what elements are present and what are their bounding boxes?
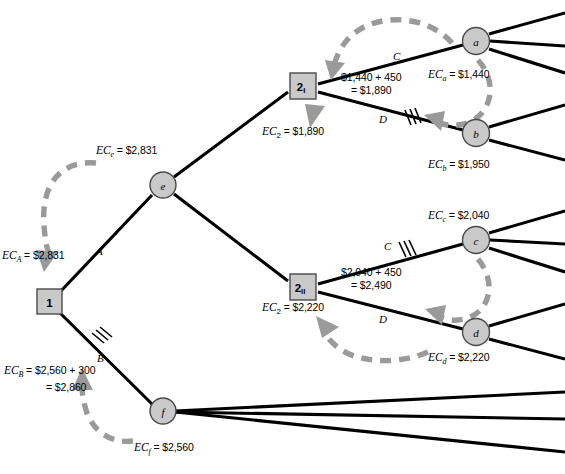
stub-c-1	[489, 211, 565, 233]
label-ec-e: ECe = $2,831	[96, 144, 157, 161]
ec-a-prefix: EC	[428, 68, 443, 80]
ec-a-eq: =	[446, 68, 458, 80]
label-ec-2II: EC2 = $2,220	[262, 301, 324, 318]
ec-c-value: $2,040	[458, 209, 490, 221]
label-ec-c: ECc = $2,040	[428, 209, 489, 226]
calc-upper-line1: $1,440 + 450	[341, 71, 401, 84]
ec-2II-prefix: EC	[262, 301, 277, 313]
stub-c-2	[490, 240, 565, 244]
ec-2I-prefix: EC	[262, 125, 277, 137]
edge-1-to-e	[60, 195, 152, 292]
svg-text:1: 1	[46, 297, 53, 309]
calc-upper-total: = $1,890	[351, 84, 391, 96]
ec-2II-eq: =	[281, 301, 293, 313]
svg-text:d: d	[473, 327, 479, 339]
svg-text:e: e	[161, 180, 166, 192]
calc-lower-line1: $2,040 + 450	[341, 266, 401, 279]
stub-b-2	[489, 140, 565, 160]
ec-f-value: $2,560	[162, 441, 194, 453]
node-decision-2I[interactable]: 2I	[290, 73, 316, 99]
label-ec-b: ECb = $1,950	[428, 158, 490, 175]
ec-f-prefix: EC	[134, 441, 149, 453]
calc-lower-total: = $2,490	[351, 279, 391, 291]
ec-e-eq: =	[114, 144, 126, 156]
node-chance-c[interactable]: c	[463, 227, 490, 254]
ec-b-eq: =	[446, 158, 458, 170]
svg-text:c: c	[474, 235, 479, 247]
ec-A-value: $2,831	[33, 249, 65, 261]
ec-B-line1: ECB = $2,560 + 300	[4, 364, 95, 381]
ec-B-total: = $2,860	[46, 381, 86, 393]
ec-A-eq: =	[21, 249, 33, 261]
label-branch-C-upper: C	[393, 50, 400, 63]
node-decision-1[interactable]: 1	[37, 289, 62, 314]
label-branch-B: B	[97, 352, 104, 365]
node-chance-d[interactable]: d	[463, 319, 490, 346]
ec-B-prefix: EC	[4, 364, 19, 376]
ec-b-prefix: EC	[428, 158, 443, 170]
ec-a-value: $1,440	[458, 68, 490, 80]
rollback-arrow-c-to-2II	[425, 259, 489, 325]
stub-b-1	[489, 105, 565, 127]
ec-d-prefix: EC	[428, 351, 443, 363]
prune-mark-C-lower	[399, 240, 416, 257]
calc-lower-sum: $2,040 + 450	[341, 266, 401, 278]
branch-C-lower-text: C	[384, 240, 391, 252]
stub-c-3	[489, 248, 565, 272]
label-branch-D-upper: D	[379, 113, 387, 126]
calc-lower-line2: = $2,490	[341, 279, 401, 292]
stub-a-1	[489, 13, 565, 34]
prune-mark-D-upper	[405, 108, 421, 125]
label-ec-f: ECf = $2,560	[134, 441, 194, 458]
stub-d-2	[489, 339, 565, 359]
node-chance-a[interactable]: a	[463, 28, 490, 55]
decision-tree-diagram: 1 2I 2II e f a b	[0, 0, 565, 474]
branch-B-text: B	[97, 352, 104, 364]
branch-A-text: A	[96, 245, 103, 257]
calc-upper-sum: $1,440 + 450	[341, 71, 401, 83]
label-ec-B: ECB = $2,560 + 300 = $2,860	[4, 364, 95, 394]
ec-2I-value: $1,890	[293, 125, 325, 137]
ec-d-value: $2,220	[458, 351, 490, 363]
node-chance-f[interactable]: f	[150, 398, 176, 424]
ec-b-value: $1,950	[458, 158, 490, 170]
stub-a-2	[490, 41, 565, 46]
ec-e-value: $2,831	[126, 144, 158, 156]
label-ec-a: ECa = $1,440	[428, 68, 490, 85]
label-branch-D-lower: D	[379, 313, 387, 326]
ec-d-eq: =	[446, 351, 458, 363]
calc-upper-line2: = $1,890	[341, 84, 401, 97]
node-decision-2II[interactable]: 2II	[290, 274, 316, 300]
edge-e-to-2II	[174, 194, 288, 281]
branch-D-lower-text: D	[379, 313, 387, 325]
ec-A-prefix: EC	[2, 249, 17, 261]
label-branch-C-lower: C	[384, 240, 391, 253]
rollback-arrow-d-to-2II	[316, 316, 428, 361]
ec-B-value: $2,560 + 300	[35, 364, 95, 376]
label-calc-upper: $1,440 + 450 = $1,890	[341, 71, 401, 96]
ec-B-eq: =	[23, 364, 35, 376]
ec-2II-value: $2,220	[293, 301, 325, 313]
ec-c-prefix: EC	[428, 209, 443, 221]
svg-text:a: a	[473, 36, 479, 48]
svg-text:b: b	[473, 128, 479, 140]
node-chance-e[interactable]: e	[150, 172, 176, 198]
label-branch-A: A	[96, 245, 103, 258]
ec-e-prefix: EC	[96, 144, 111, 156]
branch-C-upper-text: C	[393, 50, 400, 62]
prune-mark-B	[92, 327, 112, 343]
ec-c-eq: =	[446, 209, 458, 221]
label-ec-d: ECd = $2,220	[428, 351, 490, 368]
stub-d-1	[489, 304, 565, 326]
stub-a-3	[489, 49, 565, 73]
node-chance-b[interactable]: b	[463, 120, 490, 147]
label-ec-2I: EC2 = $1,890	[262, 125, 324, 142]
ec-f-eq: =	[151, 441, 163, 453]
label-calc-lower: $2,040 + 450 = $2,490	[341, 266, 401, 291]
stub-f-1	[175, 392, 565, 411]
label-ec-A: ECA = $2,831	[2, 249, 64, 266]
branch-D-upper-text: D	[379, 113, 387, 125]
ec-B-line2: = $2,860	[46, 381, 95, 394]
ec-2I-eq: =	[281, 125, 293, 137]
